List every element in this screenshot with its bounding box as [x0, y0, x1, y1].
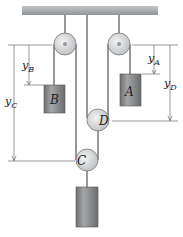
block-a: A — [120, 74, 141, 106]
pulley-d: D — [87, 109, 109, 131]
block-bottom — [76, 187, 98, 227]
block-b: B — [44, 85, 65, 113]
block-a-label: A — [124, 85, 134, 99]
pulley-b — [54, 33, 76, 55]
block-b-label: B — [49, 93, 59, 107]
pulley-c: C — [76, 149, 98, 171]
pulley-diagram: D C B A yB yC yA yD — [0, 0, 183, 237]
pulley-d-label: D — [98, 114, 109, 128]
label-y-b: yB — [21, 59, 34, 74]
ceiling — [22, 6, 158, 15]
pulley-c-label: C — [77, 154, 86, 168]
label-y-a: yA — [147, 52, 160, 67]
label-y-c: yC — [4, 95, 17, 110]
pulley-a — [108, 33, 130, 55]
label-y-d: yD — [163, 77, 177, 92]
